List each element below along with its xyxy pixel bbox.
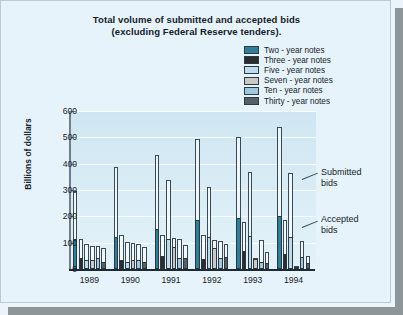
bar-accepted-segment [166,239,171,269]
bar[interactable] [300,241,305,269]
bar[interactable] [114,167,119,269]
bar-group [71,111,112,269]
bar-accepted-segment [79,258,84,269]
chart-title-line-2: (excluding Federal Reserve tenders). [1,26,392,38]
bar-accepted-segment [242,251,247,269]
bar-accepted-segment [283,254,288,269]
bar[interactable] [212,240,217,269]
legend-item[interactable]: Five - year notes [244,65,333,75]
bar[interactable] [224,244,229,269]
x-axis-tick-label: 1994 [274,275,314,285]
bar-accepted-segment [136,260,141,269]
bar-accepted-segment [248,236,253,269]
bar[interactable] [136,244,141,269]
bar-accepted-segment [224,257,229,269]
bar-accepted-segment [160,256,165,269]
bar-accepted-segment [207,237,212,269]
bar[interactable] [142,247,147,269]
legend-label: Thirty - year notes [264,97,330,106]
bar[interactable] [73,191,78,269]
bar-accepted-segment [131,260,136,269]
legend-swatch-icon [244,77,259,85]
legend-item[interactable]: Ten - year notes [244,86,333,96]
bar-accepted-segment [177,258,182,269]
bar[interactable] [84,244,89,269]
annotation-accepted-line-1: Accepted [321,214,359,225]
bar[interactable] [119,235,124,269]
bar[interactable] [218,241,223,269]
bar[interactable] [242,222,247,269]
bar[interactable] [236,137,241,269]
legend-swatch-icon [244,56,259,64]
bar-accepted-segment [253,259,258,269]
bar-accepted-segment [172,247,177,269]
y-axis-label: Billions of dollars [23,99,33,209]
bar[interactable] [183,245,188,269]
chart-title-line-1: Total volume of submitted and accepted b… [93,14,300,25]
x-axis-tick-label: 1991 [151,275,191,285]
legend-label: Seven - year notes [264,76,333,85]
annotation-submitted-line-2: bids [321,178,362,189]
bar[interactable] [155,155,160,269]
chart-title: Total volume of submitted and accepted b… [1,14,392,38]
bar[interactable] [96,246,101,269]
bar-accepted-segment [183,258,188,269]
plot-area [69,111,316,269]
bar-accepted-segment [277,216,282,269]
legend-label: Two - year notes [264,46,325,55]
bar-accepted-segment [300,257,305,269]
annotation-accepted-line-2: bids [321,225,359,236]
annotation-accepted-bids: Accepted bids [321,214,359,236]
bar[interactable] [160,235,165,269]
bar-accepted-segment [288,237,293,269]
bar-accepted-segment [101,262,106,269]
bar[interactable] [277,127,282,269]
y-axis-tick-label: 600 [47,106,77,116]
bar-accepted-segment [212,248,217,269]
bar[interactable] [90,246,95,269]
legend-swatch-icon [244,66,259,74]
chart-card: Total volume of submitted and accepted b… [0,0,391,303]
bar[interactable] [125,242,130,269]
bar-accepted-segment [90,260,95,269]
bar-accepted-segment [236,218,241,269]
page-shadow-right [395,8,403,315]
bar[interactable] [201,235,206,269]
legend-label: Three - year notes [264,56,331,65]
legend-item[interactable]: Three - year notes [244,55,333,65]
bar[interactable] [131,243,136,269]
bar[interactable] [306,256,311,269]
bar[interactable] [248,172,253,269]
legend-swatch-icon [244,46,259,54]
y-axis-tick-label: 300 [47,185,77,195]
bar-accepted-segment [155,229,160,269]
x-axis-tick-label: 1990 [110,275,150,285]
bar-group [153,111,194,269]
bar[interactable] [101,248,106,269]
x-axis-line [69,269,315,271]
bar-accepted-segment [96,258,101,269]
legend-item[interactable]: Thirty - year notes [244,96,333,106]
legend-swatch-icon [244,87,259,95]
bar[interactable] [177,239,182,269]
bar-group [275,111,316,269]
y-axis-tick-label: 500 [47,132,77,142]
bar[interactable] [283,220,288,269]
bar[interactable] [195,139,200,269]
bar[interactable] [253,258,258,269]
bar-accepted-segment [84,260,89,269]
page-shadow-bottom [8,307,403,315]
bar[interactable] [265,252,270,269]
bar[interactable] [207,187,212,269]
legend-item[interactable]: Seven - year notes [244,76,333,86]
bar[interactable] [79,239,84,269]
bar[interactable] [172,238,177,269]
legend-item[interactable]: Two - year notes [244,45,333,55]
bar[interactable] [166,180,171,269]
bar[interactable] [259,240,264,269]
bar[interactable] [288,173,293,269]
bar-accepted-segment [119,260,124,269]
bar-accepted-segment [114,237,119,269]
x-axis-tick-label: 1989 [69,275,109,285]
y-axis-tick-label: 0 [47,264,77,274]
